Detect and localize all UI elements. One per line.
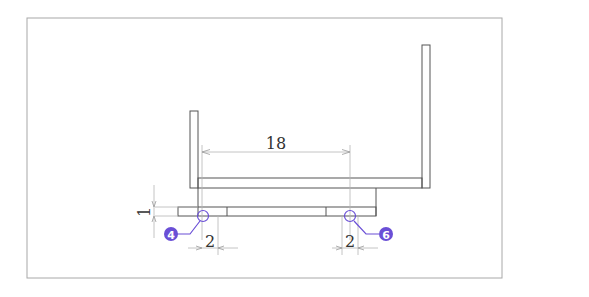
callout-4-label: 4 [167,229,175,242]
dimension-18: 18 [202,134,350,240]
right-post [422,45,430,188]
dimension-2-right-label: 2 [345,232,355,251]
callout-6-label: 6 [382,229,390,242]
drawing-frame [27,18,502,278]
technical-drawing: 18 1 2 2 [0,0,589,297]
dimension-18-label: 18 [266,134,286,153]
top-beam [198,178,422,188]
callout-6: 6 [354,221,393,242]
callout-4: 4 [164,221,200,242]
dimension-2-left: 2 [188,216,238,255]
dimension-1-label: 1 [135,207,154,217]
dimension-2-left-label: 2 [205,232,215,251]
left-post [190,111,198,188]
